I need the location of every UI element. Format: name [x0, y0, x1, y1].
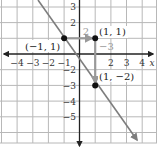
x-tick-label: 4: [139, 58, 145, 68]
run-label: 2: [83, 26, 89, 37]
y-tick-label: −2: [63, 65, 76, 75]
x-tick-label: 3: [124, 58, 130, 68]
coordinate-graph: −4 −3 −2 −1 2 3 4 x 3 2 −2 −3 −4 −5 2 −3…: [0, 0, 157, 159]
point-label: (1, 1): [99, 26, 126, 37]
x-axis-label: x: [149, 58, 154, 68]
point-1-1: [92, 35, 98, 41]
point-label: (−1, 1): [25, 41, 60, 52]
x-tick-label: 2: [108, 58, 114, 68]
x-tick-label: −2: [42, 58, 55, 68]
x-tick-label: −3: [26, 58, 40, 68]
point-label: (1, −2): [99, 71, 134, 82]
y-tick-label: −5: [63, 112, 77, 122]
y-tick-label: 3: [70, 2, 76, 12]
y-tick-label: 2: [70, 18, 76, 28]
point-1-neg2: [92, 82, 98, 88]
y-tick-label: −4: [63, 97, 77, 107]
x-tick-label: −4: [10, 58, 24, 68]
y-tick-label: −3: [63, 81, 77, 91]
rise-label: −3: [99, 41, 114, 52]
